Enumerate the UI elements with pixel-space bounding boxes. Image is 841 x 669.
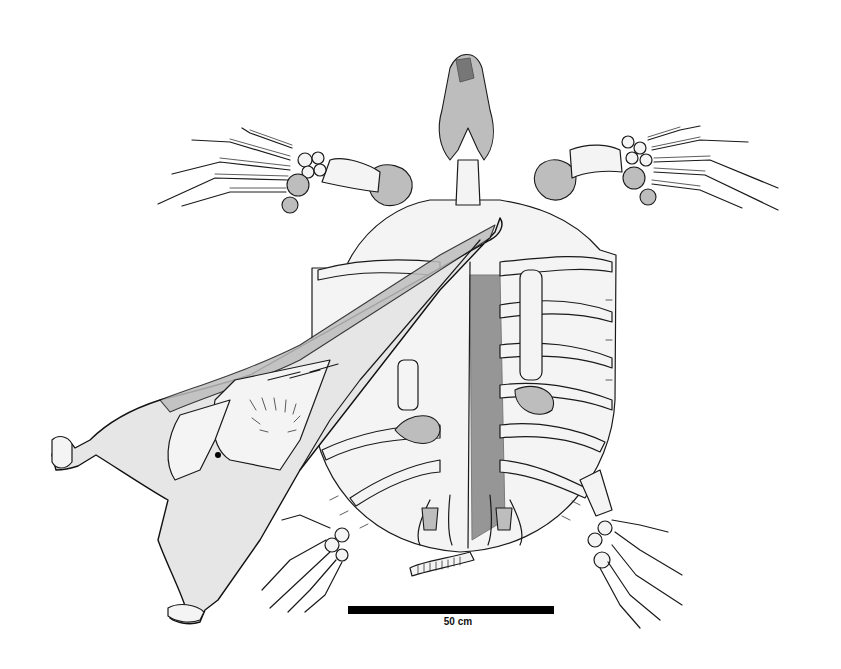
right-fore-flipper [534, 126, 778, 210]
scale-bar-label: 50 cm [348, 616, 568, 627]
right-hind-flipper [580, 470, 682, 628]
skeleton-illustration [0, 0, 841, 669]
tail-vertebrae [410, 552, 474, 576]
turtle-skull [439, 55, 493, 206]
left-hind-flipper [262, 515, 349, 612]
scale-bar [348, 606, 554, 614]
left-fore-flipper [158, 128, 412, 213]
